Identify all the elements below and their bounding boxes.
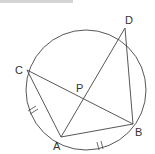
segment-CA — [27, 70, 61, 137]
label-B: B — [135, 126, 142, 138]
circle — [26, 30, 146, 150]
label-C: C — [15, 64, 23, 76]
segment-AB — [61, 124, 133, 137]
label-D: D — [125, 14, 133, 26]
segment-DB — [125, 28, 133, 124]
arc-mark-CA — [28, 106, 38, 114]
label-A: A — [53, 140, 61, 152]
segment-CB — [27, 70, 133, 124]
geometry-diagram: C D P A B — [0, 0, 155, 154]
label-P: P — [76, 82, 83, 94]
segment-AD — [61, 28, 125, 137]
